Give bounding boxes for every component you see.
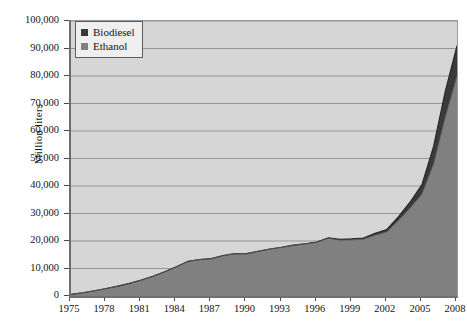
x-tick-label: 2005 [409, 304, 430, 315]
x-tick-label: 1981 [129, 304, 150, 315]
x-tick-label: 1978 [94, 304, 115, 315]
x-tick-label: 2008 [445, 304, 466, 315]
legend-label-ethanol: Ethanol [93, 41, 127, 52]
chart-legend: Biodiesel Ethanol [75, 21, 143, 58]
x-tick-label: 1987 [199, 304, 220, 315]
stacked-area-plot [71, 21, 457, 296]
legend-swatch-icon [81, 43, 88, 50]
x-tick-label: 1984 [164, 304, 185, 315]
legend-item-biodiesel: Biodiesel [81, 25, 135, 39]
x-tick-label: 1993 [269, 304, 290, 315]
legend-label-biodiesel: Biodiesel [93, 27, 135, 38]
x-tick-label: 2002 [374, 304, 395, 315]
x-tick-label: 1999 [339, 304, 360, 315]
x-tick-label: 1975 [59, 304, 80, 315]
plot-area [69, 20, 458, 298]
legend-swatch-icon [81, 29, 88, 36]
legend-item-ethanol: Ethanol [81, 39, 135, 53]
x-tick-label: 1996 [304, 304, 325, 315]
x-tick-label: 1990 [234, 304, 255, 315]
chart-figure: Million liters 010,00020,00030,00040,000… [0, 0, 467, 328]
